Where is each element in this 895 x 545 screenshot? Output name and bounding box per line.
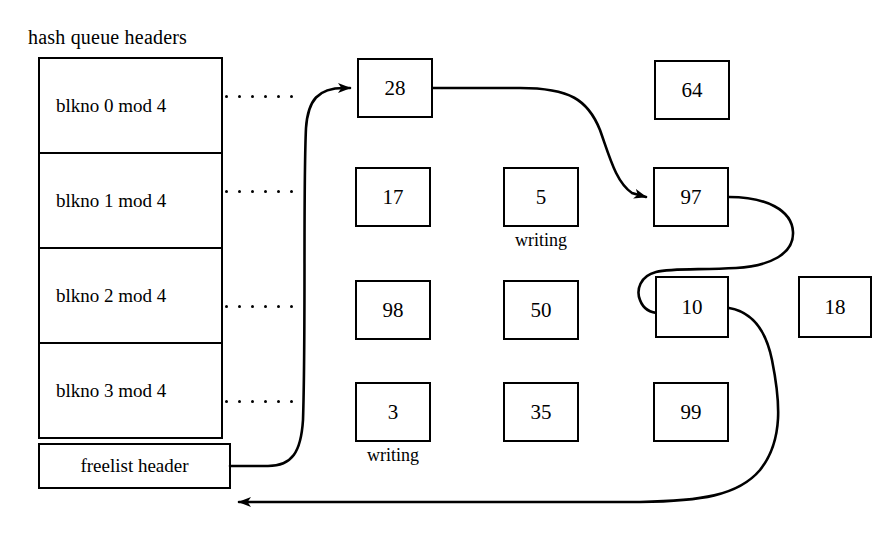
hash-queue-row-2-label: blkno 2 mod 4 xyxy=(40,285,166,307)
hash-queue-row-3-label: blkno 3 mod 4 xyxy=(40,380,166,402)
buffer-block-28[interactable]: 28 xyxy=(357,58,433,118)
buffer-block-99[interactable]: 99 xyxy=(653,382,729,442)
buffer-block-18-value: 18 xyxy=(825,295,846,320)
buffer-block-35-value: 35 xyxy=(531,400,552,425)
buffer-block-28-value: 28 xyxy=(385,76,406,101)
buffer-block-50-value: 50 xyxy=(531,298,552,323)
buffer-block-10-value: 10 xyxy=(682,295,703,320)
buffer-block-98-value: 98 xyxy=(383,298,404,323)
buffer-block-3-status-label: writing xyxy=(343,445,443,466)
buffer-block-97[interactable]: 97 xyxy=(653,167,729,227)
hash-row-1-dotted-link xyxy=(225,189,293,193)
hash-queue-row-3[interactable]: blkno 3 mod 4 xyxy=(40,344,221,437)
hash-queue-row-2[interactable]: blkno 2 mod 4 xyxy=(40,249,221,344)
hash-row-2-dotted-link xyxy=(225,304,293,308)
buffer-block-17[interactable]: 17 xyxy=(355,167,431,227)
buffer-block-64[interactable]: 64 xyxy=(654,60,730,120)
hash-row-0-dotted-link xyxy=(225,94,293,98)
buffer-block-97-value: 97 xyxy=(681,185,702,210)
buffer-block-64-value: 64 xyxy=(682,78,703,103)
hash-queue-header-table: blkno 0 mod 4 blkno 1 mod 4 blkno 2 mod … xyxy=(38,57,223,439)
buffer-block-17-value: 17 xyxy=(383,185,404,210)
edge-freelist-to-28 xyxy=(230,88,350,466)
buffer-block-5[interactable]: 5 xyxy=(503,167,579,227)
buffer-block-5-value: 5 xyxy=(536,185,547,210)
buffer-block-3[interactable]: 3 xyxy=(355,382,431,442)
hash-queue-row-0-label: blkno 0 mod 4 xyxy=(40,95,166,117)
freelist-header-box[interactable]: freelist header xyxy=(38,443,231,489)
buffer-block-5-status-label: writing xyxy=(491,230,591,251)
hash-queue-row-1[interactable]: blkno 1 mod 4 xyxy=(40,154,221,249)
buffer-block-50[interactable]: 50 xyxy=(503,280,579,340)
diagram-title: hash queue headers xyxy=(28,26,187,49)
hash-queue-row-0[interactable]: blkno 0 mod 4 xyxy=(40,59,221,154)
buffer-block-18[interactable]: 18 xyxy=(798,276,872,338)
buffer-block-99-value: 99 xyxy=(681,400,702,425)
hash-row-3-dotted-link xyxy=(225,399,293,403)
buffer-block-3-value: 3 xyxy=(388,400,399,425)
buffer-cache-diagram: hash queue headers blkno 0 mod 4 blkno 1… xyxy=(0,0,895,545)
buffer-block-10[interactable]: 10 xyxy=(655,276,729,338)
buffer-block-35[interactable]: 35 xyxy=(503,382,579,442)
buffer-block-98[interactable]: 98 xyxy=(355,280,431,340)
hash-queue-row-1-label: blkno 1 mod 4 xyxy=(40,190,166,212)
freelist-header-label: freelist header xyxy=(80,455,188,477)
